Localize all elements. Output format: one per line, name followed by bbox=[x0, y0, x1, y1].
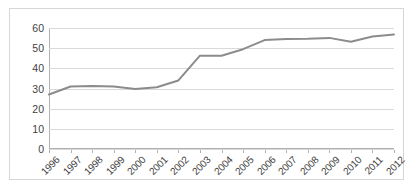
line-series-svg bbox=[49, 28, 394, 149]
x-tick-mark-1998 bbox=[92, 150, 93, 153]
x-tick-mark-2007 bbox=[286, 150, 287, 153]
x-tick-label-2000: 2000 bbox=[125, 154, 148, 177]
x-tick-mark-2003 bbox=[200, 150, 201, 153]
x-axis-tick-labels: 1996199719981999200020012002200320042005… bbox=[49, 150, 394, 188]
x-tick-mark-1999 bbox=[114, 150, 115, 153]
x-tick-label-1996: 1996 bbox=[39, 154, 62, 177]
x-tick-mark-2005 bbox=[243, 150, 244, 153]
x-tick-label-2007: 2007 bbox=[276, 154, 299, 177]
y-tick-label-0: 0 bbox=[10, 144, 44, 154]
x-tick-mark-2004 bbox=[222, 150, 223, 153]
y-tick-label-10: 10 bbox=[10, 124, 44, 134]
x-tick-mark-1996 bbox=[49, 150, 50, 153]
y-tick-label-50: 50 bbox=[10, 43, 44, 53]
x-tick-label-2008: 2008 bbox=[298, 154, 321, 177]
x-tick-label-2011: 2011 bbox=[363, 154, 385, 176]
x-tick-mark-2011 bbox=[372, 150, 373, 153]
y-tick-label-40: 40 bbox=[10, 63, 44, 73]
y-tick-label-30: 30 bbox=[10, 84, 44, 94]
x-tick-mark-2000 bbox=[135, 150, 136, 153]
x-tick-mark-2002 bbox=[178, 150, 179, 153]
x-tick-label-2001: 2001 bbox=[147, 154, 170, 177]
plot-area bbox=[49, 28, 394, 149]
x-tick-label-2002: 2002 bbox=[168, 154, 191, 177]
x-tick-mark-2001 bbox=[157, 150, 158, 153]
x-tick-mark-1997 bbox=[71, 150, 72, 153]
x-tick-mark-2009 bbox=[329, 150, 330, 153]
x-tick-mark-2006 bbox=[265, 150, 266, 153]
x-tick-label-2012: 2012 bbox=[384, 154, 407, 177]
x-tick-label-2009: 2009 bbox=[319, 154, 342, 177]
x-tick-label-2005: 2005 bbox=[233, 154, 256, 177]
line-series-path bbox=[49, 34, 394, 94]
x-tick-label-1998: 1998 bbox=[82, 154, 105, 177]
x-tick-mark-2012 bbox=[394, 150, 395, 153]
y-axis-tick-labels: 0102030405060 bbox=[10, 28, 44, 149]
y-tick-label-20: 20 bbox=[10, 104, 44, 114]
x-tick-mark-2010 bbox=[351, 150, 352, 153]
x-tick-label-2006: 2006 bbox=[254, 154, 277, 177]
x-tick-label-2003: 2003 bbox=[190, 154, 213, 177]
x-tick-label-1999: 1999 bbox=[104, 154, 127, 177]
x-tick-label-2004: 2004 bbox=[211, 154, 234, 177]
x-tick-label-2010: 2010 bbox=[341, 154, 364, 177]
x-tick-mark-2008 bbox=[308, 150, 309, 153]
x-tick-label-1997: 1997 bbox=[60, 154, 83, 177]
chart-figure: 0102030405060 19961997199819992000200120… bbox=[9, 8, 404, 180]
y-tick-label-60: 60 bbox=[10, 23, 44, 33]
